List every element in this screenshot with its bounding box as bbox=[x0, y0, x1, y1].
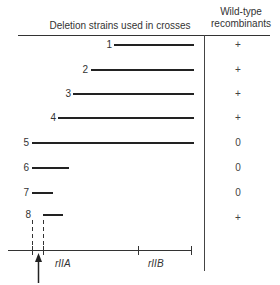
gene-map-axis bbox=[0, 0, 280, 285]
rIIB-label: rIIB bbox=[148, 258, 164, 269]
up-arrow-icon bbox=[35, 253, 42, 283]
rIIA-label: rIIA bbox=[55, 258, 71, 269]
